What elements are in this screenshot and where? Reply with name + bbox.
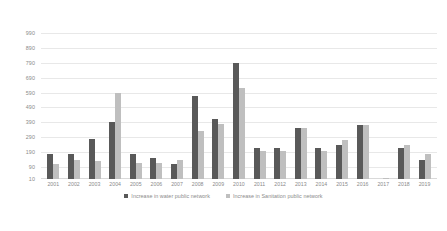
y-axis-tick-label: 190: [26, 149, 35, 155]
x-axis-tick-label: 2011: [249, 181, 270, 191]
y-axis-tick-label: 90: [29, 164, 35, 170]
x-axis-tick-label: 2006: [146, 181, 167, 191]
bar-group: [394, 33, 415, 179]
y-axis: 9908907906905904903902901909010: [0, 33, 39, 179]
bar-group: [373, 33, 394, 179]
bar-group: [291, 33, 312, 179]
legend-swatch-icon: [124, 194, 128, 198]
bar-group: [208, 33, 229, 179]
bar-group: [332, 33, 353, 179]
plot-area: [41, 33, 437, 179]
x-axis-tick-label: 2002: [64, 181, 85, 191]
y-axis-tick-label: 990: [26, 30, 35, 36]
x-axis-tick-label: 2016: [352, 181, 373, 191]
bar-sanitation: [53, 164, 59, 179]
y-axis-tick-label: 790: [26, 60, 35, 66]
y-axis-tick-label: 490: [26, 104, 35, 110]
bar-group: [84, 33, 105, 179]
bar-group: [146, 33, 167, 179]
y-axis-tick-label: 390: [26, 119, 35, 125]
x-axis-tick-label: 2017: [373, 181, 394, 191]
bar-sanitation: [74, 160, 80, 179]
x-axis-tick-label: 2001: [43, 181, 64, 191]
bar-sanitation: [342, 140, 348, 179]
bar-sanitation: [383, 178, 389, 179]
bar-group: [167, 33, 188, 179]
x-axis-tick-label: 2008: [187, 181, 208, 191]
bar-sanitation: [239, 88, 245, 179]
x-axis-tick-label: 2003: [84, 181, 105, 191]
bar-sanitation: [425, 154, 431, 179]
y-axis-tick-label: 690: [26, 75, 35, 81]
bar-group: [414, 33, 435, 179]
bar-group: [311, 33, 332, 179]
bar-group: [126, 33, 147, 179]
x-axis-tick-label: 2018: [394, 181, 415, 191]
legend-swatch-icon: [226, 194, 230, 198]
x-axis-tick-label: 2013: [291, 181, 312, 191]
x-axis-tick-label: 2015: [332, 181, 353, 191]
bar-sanitation: [136, 163, 142, 179]
legend-item[interactable]: Increase in Sanitation public network: [226, 193, 323, 199]
bar-sanitation: [198, 131, 204, 179]
bar-sanitation: [177, 160, 183, 179]
bar-sanitation: [363, 125, 369, 179]
bar-group: [352, 33, 373, 179]
bar-group: [270, 33, 291, 179]
bar-group: [105, 33, 126, 179]
bar-sanitation: [301, 128, 307, 179]
x-axis-tick-label: 2014: [311, 181, 332, 191]
bar-sanitation: [321, 151, 327, 179]
bar-sanitation: [260, 151, 266, 179]
y-axis-tick-label: 590: [26, 90, 35, 96]
bar-groups: [41, 33, 437, 179]
x-axis-tick-label: 2019: [414, 181, 435, 191]
chart-legend: Increase in water public networkIncrease…: [0, 193, 447, 199]
y-axis-tick-label: 890: [26, 45, 35, 51]
bar-group: [43, 33, 64, 179]
x-axis-tick-label: 2012: [270, 181, 291, 191]
x-axis-tick-label: 2010: [229, 181, 250, 191]
bar-sanitation: [404, 145, 410, 179]
bar-chart: 9908907906905904903902901909010 20012002…: [0, 0, 447, 231]
legend-item-label: Increase in water public network: [131, 193, 210, 199]
bar-group: [187, 33, 208, 179]
bar-sanitation: [156, 163, 162, 179]
x-axis: 2001200220032004200520062007200820092010…: [41, 181, 437, 191]
bar-sanitation: [115, 93, 121, 179]
bar-group: [229, 33, 250, 179]
bar-sanitation: [95, 161, 101, 179]
legend-item[interactable]: Increase in water public network: [124, 193, 210, 199]
bar-group: [64, 33, 85, 179]
y-axis-tick-label: 10: [29, 176, 35, 182]
x-axis-tick-label: 2007: [167, 181, 188, 191]
bar-sanitation: [218, 124, 224, 179]
legend-item-label: Increase in Sanitation public network: [233, 193, 323, 199]
x-axis-tick-label: 2005: [126, 181, 147, 191]
x-axis-tick-label: 2004: [105, 181, 126, 191]
y-axis-tick-label: 290: [26, 134, 35, 140]
x-axis-tick-label: 2009: [208, 181, 229, 191]
bar-sanitation: [280, 151, 286, 179]
bar-group: [249, 33, 270, 179]
